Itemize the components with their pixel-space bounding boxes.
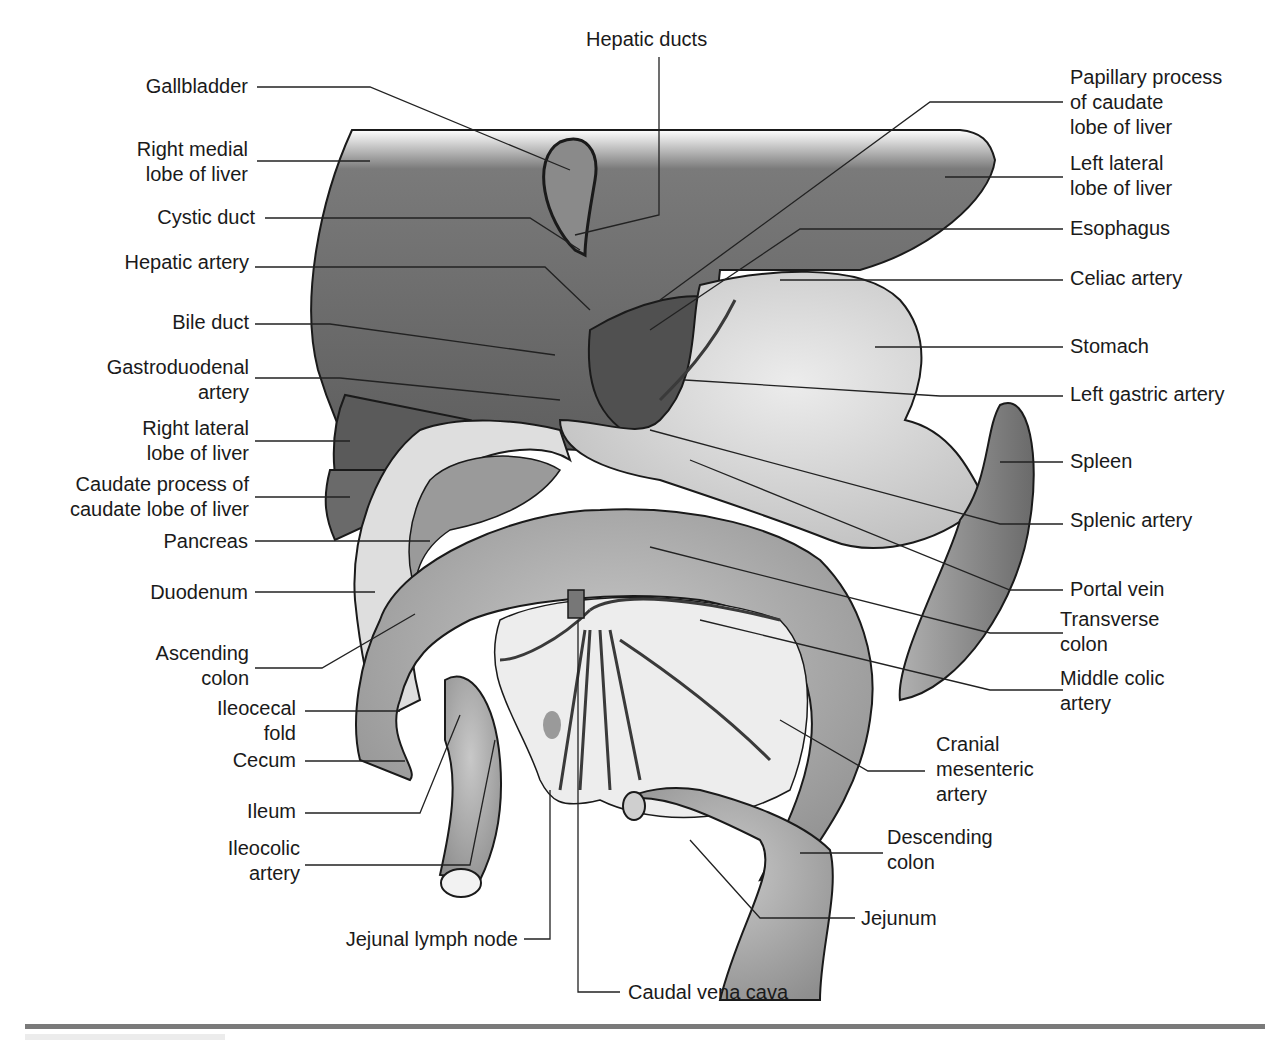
label-caudal-vena-cava: Caudal vena cava [628, 980, 788, 1005]
label-duodenum: Duodenum [150, 580, 248, 605]
label-cystic-duct: Cystic duct [157, 205, 255, 230]
label-right-lateral-lobe: Right laterallobe of liver [142, 416, 249, 466]
label-caudate-process: Caudate process ofcaudate lobe of liver [70, 472, 249, 522]
label-jejunum: Jejunum [861, 906, 937, 931]
jejunal-lymph-node-shape [543, 711, 561, 739]
label-left-gastric-artery: Left gastric artery [1070, 382, 1225, 407]
label-ileocolic-artery: Ileocolicartery [228, 836, 300, 886]
jejunum-lumen [623, 792, 645, 820]
label-right-medial-lobe: Right mediallobe of liver [137, 137, 248, 187]
label-stomach: Stomach [1070, 334, 1149, 359]
label-transverse-colon: Transversecolon [1060, 607, 1159, 657]
label-hepatic-ducts: Hepatic ducts [586, 27, 707, 52]
label-papillary-process: Papillary processof caudatelobe of liver [1070, 65, 1222, 140]
label-descending-colon: Descendingcolon [887, 825, 993, 875]
label-ascending-colon: Ascendingcolon [156, 641, 249, 691]
ileum-lumen [441, 869, 481, 897]
label-middle-colic-artery: Middle colicartery [1060, 666, 1164, 716]
label-cecum: Cecum [233, 748, 296, 773]
label-spleen: Spleen [1070, 449, 1132, 474]
label-bile-duct: Bile duct [172, 310, 249, 335]
label-cranial-mesenteric-artery: Cranialmesentericartery [936, 732, 1034, 807]
label-gastroduodenal-artery: Gastroduodenalartery [107, 355, 249, 405]
caudal-vena-cava-stump [568, 590, 584, 618]
label-gallbladder: Gallbladder [146, 74, 248, 99]
label-splenic-artery: Splenic artery [1070, 508, 1192, 533]
mesentery-shape [495, 598, 808, 818]
label-ileocecal-fold: Ileocecalfold [217, 696, 296, 746]
label-left-lateral-lobe: Left laterallobe of liver [1070, 151, 1172, 201]
label-jejunal-lymph-node: Jejunal lymph node [346, 927, 518, 952]
label-celiac-artery: Celiac artery [1070, 266, 1182, 291]
label-ileum: Ileum [247, 799, 296, 824]
label-hepatic-artery: Hepatic artery [125, 250, 250, 275]
anatomy-figure: Hepatic ducts Gallbladder Right mediallo… [0, 0, 1287, 1044]
label-esophagus: Esophagus [1070, 216, 1170, 241]
label-portal-vein: Portal vein [1070, 577, 1165, 602]
cropped-caption [25, 1034, 225, 1040]
bottom-rule [25, 1024, 1265, 1029]
label-pancreas: Pancreas [164, 529, 249, 554]
ileum-shape [440, 677, 501, 880]
